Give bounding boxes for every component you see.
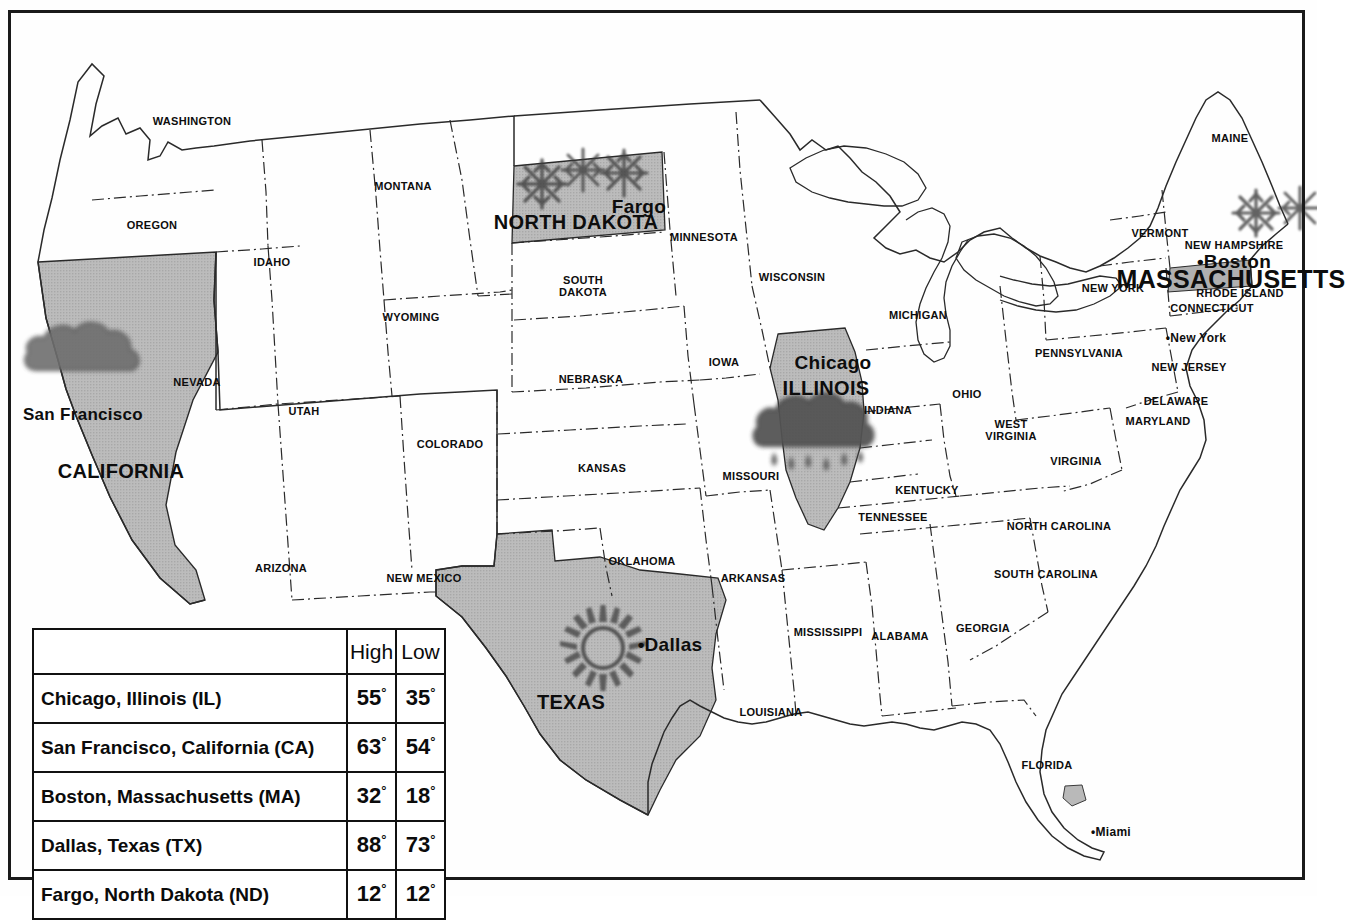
state-label-indiana: INDIANA	[864, 404, 912, 416]
table-row: Chicago, Illinois (IL)55°35°	[33, 674, 445, 723]
table-row: Dallas, Texas (TX)88°73°	[33, 821, 445, 870]
degree-symbol: °	[381, 734, 386, 749]
table-row: San Francisco, California (CA)63°54°	[33, 723, 445, 772]
state-label-montana: MONTANA	[374, 180, 432, 192]
state-label-washington: WASHINGTON	[153, 115, 232, 127]
state-label-south-carolina: SOUTH CAROLINA	[994, 568, 1098, 580]
state-label-nebraska: NEBRASKA	[559, 373, 624, 385]
cell-city: Boston, Massachusetts (MA)	[33, 772, 347, 821]
state-label-maryland: MARYLAND	[1126, 415, 1191, 427]
state-label-oregon: OREGON	[127, 219, 178, 231]
cell-city: Dallas, Texas (TX)	[33, 821, 347, 870]
degree-symbol: °	[381, 685, 386, 700]
state-label-nevada: NEVADA	[173, 376, 220, 388]
degree-symbol: °	[381, 783, 386, 798]
state-label-colorado: COLORADO	[417, 438, 484, 450]
cell-low: 12°	[396, 870, 445, 919]
degree-symbol: °	[430, 734, 435, 749]
cell-high: 63°	[347, 723, 396, 772]
state-label-new-jersey: NEW JERSEY	[1151, 361, 1226, 373]
city-label-boston: •Boston	[1197, 251, 1271, 272]
state-label-north-carolina: NORTH CAROLINA	[1007, 520, 1111, 532]
state-label-california: CALIFORNIA	[58, 460, 184, 482]
value-low: 73	[406, 833, 430, 858]
degree-symbol: °	[381, 881, 386, 896]
state-label-new-hampshire: NEW HAMPSHIRE	[1185, 239, 1284, 251]
value-high: 88	[357, 833, 381, 858]
value-low: 54	[406, 735, 430, 760]
temperature-legend-table: High Low Chicago, Illinois (IL)55°35°San…	[32, 628, 446, 920]
cell-high: 12°	[347, 870, 396, 919]
state-label-delaware: DELAWARE	[1144, 395, 1209, 407]
table-header-row: High Low	[33, 629, 445, 674]
state-label-arkansas: ARKANSAS	[721, 572, 786, 584]
state-label-ohio: OHIO	[952, 388, 981, 400]
state-label-illinois: ILLINOIS	[783, 377, 870, 399]
state-label-tennessee: TENNESSEE	[858, 511, 927, 523]
state-label-virginia: VIRGINIA	[1050, 455, 1101, 467]
cell-low: 18°	[396, 772, 445, 821]
cell-city: San Francisco, California (CA)	[33, 723, 347, 772]
city-label-san-francisco: San Francisco	[23, 405, 143, 424]
state-label-iowa: IOWA	[709, 356, 740, 368]
table-body: Chicago, Illinois (IL)55°35°San Francisc…	[33, 674, 445, 919]
city-label-new-york: •New York	[1166, 332, 1226, 345]
degree-symbol: °	[430, 881, 435, 896]
state-label-vermont: VERMONT	[1131, 227, 1188, 239]
city-label-fargo: Fargo	[612, 196, 666, 217]
cell-low: 73°	[396, 821, 445, 870]
state-label-kentucky: KENTUCKY	[895, 484, 959, 496]
state-label-louisiana: LOUISIANA	[739, 706, 802, 718]
degree-symbol: °	[381, 832, 386, 847]
cell-high: 55°	[347, 674, 396, 723]
state-label-missouri: MISSOURI	[723, 470, 780, 482]
cell-city: Fargo, North Dakota (ND)	[33, 870, 347, 919]
table-row: Fargo, North Dakota (ND)12°12°	[33, 870, 445, 919]
state-label-oklahoma: OKLAHOMA	[608, 555, 675, 567]
value-high: 55	[357, 686, 381, 711]
value-high: 32	[357, 784, 381, 809]
degree-symbol: °	[430, 685, 435, 700]
state-label-connecticut: CONNECTICUT	[1170, 302, 1253, 314]
value-low: 12	[406, 882, 430, 907]
value-low: 18	[406, 784, 430, 809]
state-label-wyoming: WYOMING	[382, 311, 439, 323]
cell-high: 88°	[347, 821, 396, 870]
state-label-mississippi: MISSISSIPPI	[794, 626, 863, 638]
cell-high: 32°	[347, 772, 396, 821]
state-label-minnesota: MINNESOTA	[670, 231, 738, 243]
state-label-michigan: MICHIGAN	[889, 309, 947, 321]
cell-low: 54°	[396, 723, 445, 772]
city-label-miami: •Miami	[1091, 826, 1131, 839]
city-label-chicago: Chicago	[794, 352, 871, 373]
table-row: Boston, Massachusetts (MA)32°18°	[33, 772, 445, 821]
state-label-kansas: KANSAS	[578, 462, 626, 474]
degree-symbol: °	[430, 832, 435, 847]
value-high: 12	[357, 882, 381, 907]
state-label-pennsylvania: PENNSYLVANIA	[1035, 347, 1123, 359]
state-label-south-dakota: SOUTHDAKOTA	[559, 274, 607, 299]
temperature-legend: High Low Chicago, Illinois (IL)55°35°San…	[32, 628, 446, 920]
header-blank-cell	[33, 629, 347, 674]
cell-city: Chicago, Illinois (IL)	[33, 674, 347, 723]
state-label-utah: UTAH	[289, 405, 320, 417]
state-label-alabama: ALABAMA	[871, 630, 929, 642]
state-label-maine: MAINE	[1212, 132, 1249, 144]
state-label-arizona: ARIZONA	[255, 562, 307, 574]
header-high: High	[347, 629, 396, 674]
value-high: 63	[357, 735, 381, 760]
degree-symbol: °	[430, 783, 435, 798]
cell-low: 35°	[396, 674, 445, 723]
state-label-new-mexico: NEW MEXICO	[386, 572, 461, 584]
state-label-west-virginia: WESTVIRGINIA	[985, 418, 1036, 443]
value-low: 35	[406, 686, 430, 711]
state-label-texas: TEXAS	[537, 691, 605, 713]
state-label-georgia: GEORGIA	[956, 622, 1010, 634]
table-head: High Low	[33, 629, 445, 674]
state-label-florida: FLORIDA	[1022, 759, 1073, 771]
header-low: Low	[396, 629, 445, 674]
state-label-idaho: IDAHO	[254, 256, 291, 268]
state-label-wisconsin: WISCONSIN	[759, 271, 825, 283]
city-label-dallas: •Dallas	[638, 634, 703, 655]
